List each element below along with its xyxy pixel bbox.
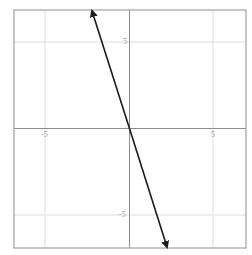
x-tick-label-pos5: 5 [211, 130, 215, 139]
x-tick-label-neg5: -5 [41, 130, 48, 139]
graph-plot: -5 5 5 -5 [0, 0, 252, 255]
y-tick-label-pos5: 5 [123, 37, 127, 46]
y-tick-label-neg5: -5 [119, 210, 126, 219]
